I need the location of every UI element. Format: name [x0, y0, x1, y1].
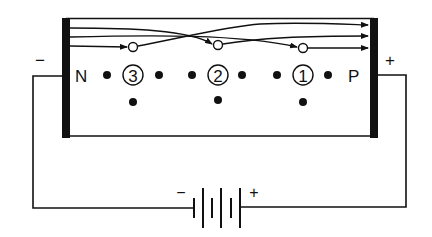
right-electrode	[370, 18, 378, 138]
flow-arrow	[70, 46, 127, 47]
semiconductor-circuit-diagram: 3 2 1 N P − + − +	[0, 0, 432, 237]
site-2: 2	[188, 65, 246, 104]
flow-arrow	[138, 23, 368, 46]
hole-circle	[214, 41, 223, 50]
battery-negative-sign: −	[176, 184, 185, 201]
site-1: 1	[273, 65, 332, 106]
left-wire	[33, 76, 194, 208]
battery-icon	[194, 188, 240, 228]
site-number: 2	[213, 67, 222, 86]
site-number: 1	[298, 67, 307, 86]
hole-circle	[299, 44, 308, 53]
p-region-label: P	[348, 67, 359, 86]
battery-positive-sign: +	[249, 184, 258, 201]
site-number: 3	[128, 67, 137, 86]
hole-circle	[129, 43, 138, 52]
left-electrode	[62, 18, 70, 138]
site-3: 3	[103, 65, 163, 106]
positive-terminal-sign: +	[385, 51, 395, 70]
negative-terminal-sign: −	[35, 51, 45, 70]
right-wire	[240, 75, 406, 207]
n-region-label: N	[75, 67, 87, 86]
circuit-wires	[33, 75, 406, 208]
